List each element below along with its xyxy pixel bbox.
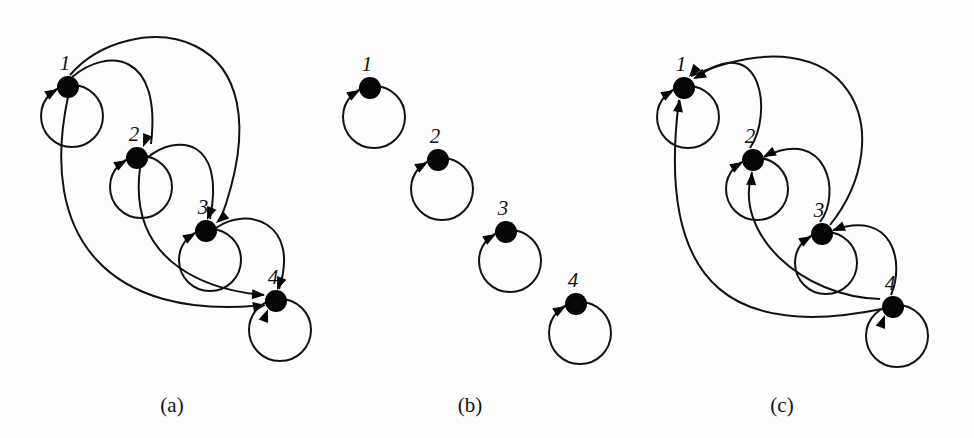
node-3-label: 3 bbox=[813, 198, 825, 222]
panel-b: 1234 bbox=[343, 52, 611, 364]
node-2 bbox=[742, 149, 764, 171]
edge-3-1 bbox=[691, 57, 862, 225]
edge-3-2-arrowhead bbox=[763, 147, 777, 157]
self-loop-4-arrowhead bbox=[876, 315, 885, 329]
panel-c: 1234 bbox=[657, 52, 928, 367]
node-4-label: 4 bbox=[568, 268, 579, 292]
panel-c-caption: (c) bbox=[770, 393, 793, 417]
node-3-label: 3 bbox=[197, 195, 209, 219]
node-1 bbox=[57, 76, 79, 98]
node-1 bbox=[673, 77, 695, 99]
node-4-label: 4 bbox=[268, 265, 279, 289]
node-1-label: 1 bbox=[676, 52, 687, 76]
panel-b-caption: (b) bbox=[458, 393, 483, 417]
node-4-label: 4 bbox=[885, 271, 896, 295]
node-4 bbox=[565, 293, 587, 315]
node-1 bbox=[359, 77, 381, 99]
node-2 bbox=[427, 149, 449, 171]
figure: 1234 1234 1234 (a) (b) (c) bbox=[0, 0, 974, 438]
node-1-label: 1 bbox=[362, 52, 373, 76]
node-2-label: 2 bbox=[129, 122, 140, 146]
node-4 bbox=[882, 296, 904, 318]
panel-a: 1234 bbox=[41, 37, 311, 361]
self-loop-4-arrowhead bbox=[259, 309, 268, 323]
edge-2-4-arrowhead bbox=[252, 289, 265, 299]
node-2-label: 2 bbox=[745, 124, 756, 148]
figure-canvas: 1234 1234 1234 (a) (b) (c) bbox=[0, 0, 974, 438]
node-1-label: 1 bbox=[60, 51, 71, 75]
edge-3-4-arrowhead bbox=[277, 276, 286, 290]
edge-1-4 bbox=[61, 97, 264, 307]
node-3 bbox=[495, 221, 517, 243]
node-3-label: 3 bbox=[497, 196, 509, 220]
node-4 bbox=[265, 290, 287, 312]
node-3 bbox=[195, 220, 217, 242]
edge-4-2-arrowhead bbox=[746, 172, 756, 185]
node-3 bbox=[811, 223, 833, 245]
node-2-label: 2 bbox=[430, 124, 441, 148]
edge-4-3-arrowhead bbox=[832, 222, 846, 231]
panel-a-caption: (a) bbox=[160, 393, 183, 417]
edge-4-1 bbox=[675, 100, 882, 317]
edge-2-3-arrowhead bbox=[207, 206, 216, 220]
node-2 bbox=[126, 147, 148, 169]
edge-1-2 bbox=[72, 61, 152, 144]
